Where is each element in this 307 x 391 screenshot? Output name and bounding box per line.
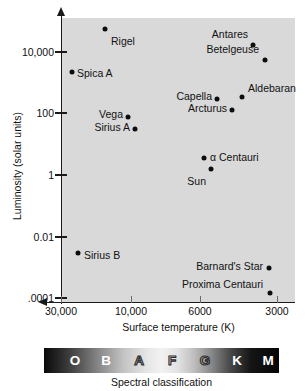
hr-diagram-figure: 10,00010010.01.0001 30,00010,00060003000… (0, 0, 307, 391)
x-tick-mark (200, 296, 201, 303)
star-label: Vega (99, 109, 123, 120)
star-label: Arcturus (188, 103, 227, 114)
star-label: Antares (212, 29, 248, 40)
star-point (263, 58, 268, 63)
y-tick-mark (55, 236, 67, 237)
spectral-class-g: G (200, 354, 211, 368)
x-tick-mark (61, 296, 62, 303)
spectral-class-k: K (232, 354, 242, 368)
star-point (76, 251, 81, 256)
star-label: Aldebaran (248, 83, 296, 94)
y-tick-label: 1 (48, 170, 54, 181)
star-point (103, 27, 108, 32)
star-label: Sirius A (94, 122, 130, 133)
spectral-class-b: B (101, 354, 111, 368)
star-point (268, 291, 273, 296)
star-label: Spica A (77, 68, 113, 79)
y-tick-mark (55, 112, 67, 113)
star-point (209, 167, 214, 172)
star-label: Rigel (111, 36, 135, 47)
star-point (230, 108, 235, 113)
x-axis-title: Surface temperature (K) (62, 321, 295, 333)
x-tick-label: 3000 (265, 306, 288, 317)
y-tick-mark (55, 51, 67, 52)
star-point (133, 127, 138, 132)
star-label: Capella (176, 91, 212, 102)
x-axis-line (44, 302, 295, 303)
y-tick-label: 0.01 (34, 232, 54, 243)
spectral-class-m: M (262, 354, 273, 368)
y-axis-arrow-icon (57, 7, 65, 16)
star-label: Sirius B (84, 250, 120, 261)
x-tick-mark (277, 296, 278, 303)
y-tick-label: .0001 (28, 293, 54, 304)
y-axis-line (61, 14, 62, 304)
star-point (70, 70, 75, 75)
spectral-class-o: O (70, 354, 81, 368)
star-label: Betelgeuse (206, 44, 259, 55)
x-tick-label: 10,000 (115, 306, 147, 317)
spectral-class-f: F (168, 354, 176, 368)
star-point (215, 97, 220, 102)
spectral-classification-caption: Spectral classification (44, 376, 279, 388)
y-tick-label: 100 (36, 108, 54, 119)
star-label: Sun (187, 176, 206, 187)
x-tick-mark (131, 296, 132, 303)
star-label: α Centauri (210, 152, 259, 163)
y-tick-label: 10,000 (22, 47, 54, 58)
star-label: Barnard's Star (196, 261, 263, 272)
spectral-classification-bar: OBAFGKM (44, 348, 279, 373)
y-axis-title: Luminosity (solar units) (11, 81, 23, 251)
x-tick-label: 30,000 (45, 306, 77, 317)
x-tick-label: 6000 (188, 306, 211, 317)
star-label: Proxima Centauri (182, 279, 263, 290)
star-point (126, 115, 131, 120)
star-point (240, 95, 245, 100)
y-tick-mark (55, 174, 67, 175)
star-point (267, 266, 272, 271)
spectral-class-a: A (134, 354, 144, 368)
star-point (202, 156, 207, 161)
